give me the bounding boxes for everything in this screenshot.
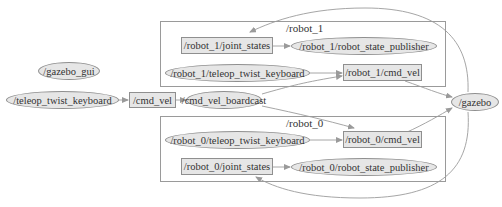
topic-cmd-vel[interactable]: /cmd_vel xyxy=(129,92,176,108)
topic-robot0-joint-states[interactable]: /robot_0/joint_states xyxy=(181,158,273,175)
node-robot0-teleop-twist-keyboard[interactable]: /robot_0/teleop_twist_keyboard xyxy=(165,131,310,149)
topic-robot1-cmd-vel[interactable]: /robot_1/cmd_vel xyxy=(343,64,422,81)
ros-graph-canvas: /robot_1 /robot_0 /gazebo_gui /teleop_tw… xyxy=(0,0,502,207)
node-gazebo[interactable]: /gazebo xyxy=(451,93,499,111)
node-gazebo-gui[interactable]: /gazebo_gui xyxy=(38,62,100,80)
node-robot1-robot-state-publisher[interactable]: /robot_1/robot_state_publisher xyxy=(291,37,437,55)
topic-robot1-joint-states[interactable]: /robot_1/joint_states xyxy=(181,37,273,54)
node-cmd-vel-boardcast[interactable]: /cmd_vel_boardcast xyxy=(186,91,262,109)
node-robot0-robot-state-publisher[interactable]: /robot_0/robot_state_publisher xyxy=(291,158,437,176)
cluster-robot-1-label: /robot_1 xyxy=(286,22,323,34)
node-robot1-teleop-twist-keyboard[interactable]: /robot_1/teleop_twist_keyboard xyxy=(165,64,310,82)
cluster-robot-0-label: /robot_0 xyxy=(286,117,323,129)
topic-robot0-cmd-vel[interactable]: /robot_0/cmd_vel xyxy=(343,131,422,148)
node-teleop-twist-keyboard[interactable]: /teleop_twist_keyboard xyxy=(6,91,119,109)
